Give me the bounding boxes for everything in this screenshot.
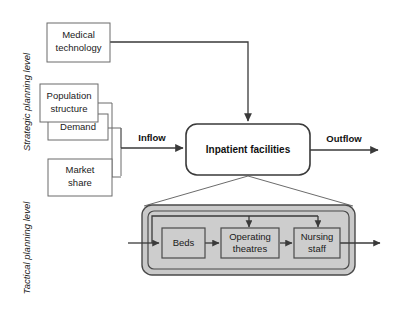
link-medical-technology-to-hub xyxy=(110,42,248,121)
operating-theatres-label-line2: theatres xyxy=(233,243,268,254)
diagram-canvas: Strategic planning level Tactical planni… xyxy=(0,0,398,312)
demand-label-line1: Demand xyxy=(60,121,96,132)
node-beds[interactable]: Beds xyxy=(162,228,205,258)
node-population-structure[interactable]: Population structure xyxy=(40,84,98,122)
link-demand xyxy=(108,128,121,148)
outflow-label: Outflow xyxy=(326,133,362,144)
node-operating-theatres[interactable]: Operating theatres xyxy=(221,228,279,258)
strategic-level-text: Strategic planning level xyxy=(21,52,32,151)
tactical-level-text: Tactical planning level xyxy=(21,201,32,294)
node-nursing-staff[interactable]: Nursing staff xyxy=(294,228,340,258)
strategic-level-label: Strategic planning level xyxy=(21,52,32,151)
node-market-share[interactable]: Market share xyxy=(48,159,112,196)
beds-label-line1: Beds xyxy=(173,237,195,248)
inflow-label: Inflow xyxy=(138,132,166,143)
market-share-label-line1: Market xyxy=(65,164,94,175)
market-share-label-line2: share xyxy=(68,177,92,188)
link-hub-explode-left xyxy=(144,176,248,206)
tactical-level-label: Tactical planning level xyxy=(21,201,32,294)
population-structure-label-line2: structure xyxy=(51,103,88,114)
nursing-staff-label-line1: Nursing xyxy=(301,231,334,242)
population-structure-label-line1: Population xyxy=(47,90,92,101)
diagram-svg: Strategic planning level Tactical planni… xyxy=(0,0,398,312)
medical-technology-label-line1: Medical xyxy=(62,29,95,40)
nursing-staff-label-line2: staff xyxy=(308,243,326,254)
inpatient-facilities-label: Inpatient facilities xyxy=(206,144,291,155)
operating-theatres-label-line1: Operating xyxy=(229,231,271,242)
medical-technology-label-line2: technology xyxy=(56,42,102,53)
node-inpatient-facilities[interactable]: Inpatient facilities xyxy=(186,124,310,175)
link-hub-explode-right xyxy=(248,176,353,206)
node-medical-technology[interactable]: Medical technology xyxy=(47,23,110,62)
